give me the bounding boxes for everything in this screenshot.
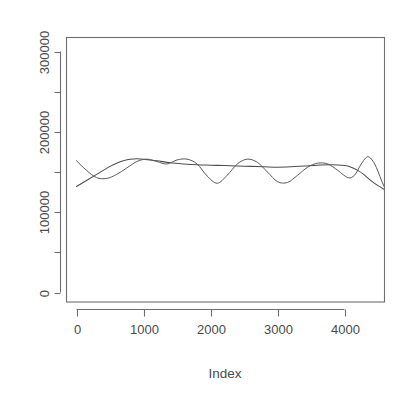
r-base-plot: 0100000200000300000 01000200030004000 In… xyxy=(0,0,405,404)
x-tick-label: 1000 xyxy=(130,322,159,337)
x-tick-label: 0 xyxy=(74,322,81,337)
plot-root: 0100000200000300000 01000200030004000 In… xyxy=(0,0,405,404)
y-tick-label: 300000 xyxy=(37,31,52,74)
x-axis-title: Index xyxy=(208,366,241,381)
x-tick-label: 4000 xyxy=(331,322,360,337)
y-tick-label: 0 xyxy=(37,290,52,297)
x-tick-label: 3000 xyxy=(264,322,293,337)
y-tick-label: 100000 xyxy=(37,191,52,234)
x-tick-label: 2000 xyxy=(197,322,226,337)
y-tick-label: 200000 xyxy=(37,111,52,154)
